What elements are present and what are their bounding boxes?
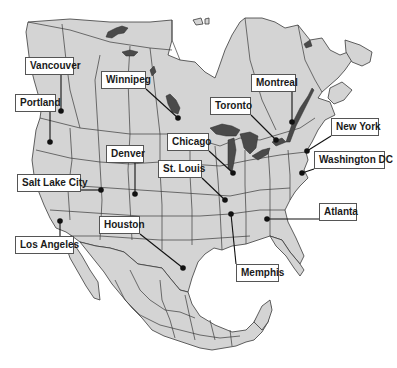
city-label-montreal: Montreal	[251, 74, 296, 92]
city-label-salt-lake-city: Salt Lake City	[17, 174, 81, 192]
city-marker-st-louis[interactable]	[222, 197, 228, 203]
city-label-houston: Houston	[99, 216, 140, 234]
map-stage: VancouverPortlandWinnipegMontrealToronto…	[0, 0, 397, 368]
city-label-toronto: Toronto	[210, 97, 251, 115]
city-label-los-angeles: Los Angeles	[15, 236, 74, 254]
city-marker-houston[interactable]	[180, 265, 186, 271]
city-label-portland: Portland	[15, 94, 56, 112]
city-label-st-louis: St. Louis	[158, 160, 202, 178]
city-marker-toronto[interactable]	[273, 137, 279, 143]
land-arctic-island-2	[205, 18, 209, 24]
city-label-vancouver: Vancouver	[25, 57, 74, 75]
city-label-winnipeg: Winnipeg	[101, 71, 146, 89]
city-label-new-york: New York	[331, 118, 379, 136]
city-marker-washington-dc[interactable]	[299, 170, 305, 176]
city-marker-atlanta[interactable]	[264, 216, 270, 222]
city-marker-salt-lake-city[interactable]	[98, 187, 104, 193]
city-label-washington-dc: Washington DC	[314, 151, 385, 169]
city-marker-new-york[interactable]	[304, 148, 310, 154]
city-label-denver: Denver	[106, 145, 144, 163]
city-marker-chicago[interactable]	[230, 170, 236, 176]
city-marker-denver[interactable]	[132, 191, 138, 197]
city-marker-winnipeg[interactable]	[175, 115, 181, 121]
city-label-chicago: Chicago	[167, 133, 209, 151]
land-nova-scotia	[328, 82, 352, 104]
city-marker-los-angeles[interactable]	[57, 218, 63, 224]
city-label-atlanta: Atlanta	[319, 203, 357, 221]
city-marker-memphis[interactable]	[228, 211, 234, 217]
city-marker-montreal[interactable]	[289, 119, 295, 125]
land-arctic-island-1	[193, 18, 203, 25]
city-label-memphis: Memphis	[236, 264, 279, 282]
city-marker-portland[interactable]	[47, 139, 53, 145]
